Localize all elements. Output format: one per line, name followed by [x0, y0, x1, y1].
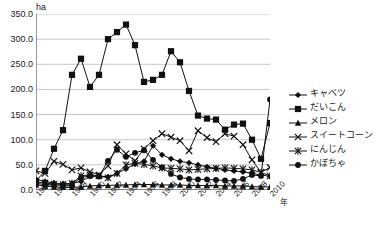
plot-area: [36, 14, 270, 190]
legend-item-label: キャベツ: [310, 89, 346, 98]
y-tick-label: 150.0: [0, 110, 33, 120]
circle-marker-icon: [288, 157, 308, 169]
data-point-circle: [295, 162, 301, 168]
data-point-square: [51, 146, 57, 152]
y-tick-label: 0.0: [0, 185, 33, 195]
data-point-circle: [267, 97, 270, 103]
square-marker-icon: [288, 101, 308, 113]
legend-item-label: にんじん: [310, 145, 346, 154]
legend-item-2[interactable]: メロン: [288, 114, 383, 128]
legend-item-5[interactable]: かぼちゃ: [288, 156, 383, 170]
data-point-square: [114, 29, 120, 35]
data-point-square: [132, 42, 138, 48]
data-point-circle: [159, 164, 165, 170]
data-point-square: [96, 72, 102, 78]
legend-item-label: かぼちゃ: [310, 159, 346, 168]
legend-item-label: メロン: [310, 117, 337, 126]
vegetable-area-line-chart: ha 350.0300.0250.0200.0150.0100.050.00.0…: [0, 0, 383, 225]
data-point-square: [240, 121, 246, 127]
data-point-square: [186, 88, 192, 94]
series-5: [36, 97, 270, 189]
data-point-square: [87, 84, 93, 90]
data-point-square: [213, 117, 219, 123]
data-point-x: [51, 158, 57, 164]
data-point-circle: [105, 158, 111, 164]
data-point-circle: [213, 177, 219, 183]
data-point-square: [204, 115, 210, 121]
x-axis-unit-label: 年: [280, 196, 288, 207]
data-point-square: [69, 72, 75, 78]
data-point-square: [231, 122, 237, 128]
legend-item-1[interactable]: だいこん: [288, 100, 383, 114]
data-point-circle: [123, 154, 129, 160]
x-axis-tick-labels: 1984198619881990199219941996199820002002…: [36, 190, 286, 225]
data-point-x: [159, 130, 165, 136]
data-point-circle: [258, 173, 264, 179]
data-point-circle: [195, 177, 201, 183]
y-tick-label: 250.0: [0, 59, 33, 69]
data-point-diamond: [177, 158, 183, 164]
data-point-x: [177, 138, 183, 144]
data-point-circle: [87, 173, 93, 179]
data-point-circle: [114, 147, 120, 153]
data-point-circle: [150, 157, 156, 163]
y-tick-label: 100.0: [0, 135, 33, 145]
asterisk-marker-icon: [288, 143, 308, 155]
data-point-square: [249, 137, 255, 143]
data-point-square: [123, 21, 129, 27]
data-point-square: [168, 48, 174, 54]
data-point-circle: [96, 174, 102, 180]
data-point-circle: [177, 175, 183, 181]
data-point-square: [141, 79, 147, 85]
data-point-circle: [132, 150, 138, 156]
data-point-square: [150, 77, 156, 83]
data-point-circle: [231, 178, 237, 184]
x-marker-icon: [288, 129, 308, 141]
legend-item-label: だいこん: [310, 103, 346, 112]
y-tick-label: 350.0: [0, 9, 33, 19]
data-point-x: [240, 142, 246, 148]
data-point-circle: [141, 147, 147, 153]
data-point-diamond: [168, 156, 174, 162]
triangle-marker-icon: [288, 115, 308, 127]
data-point-x: [186, 148, 192, 154]
data-point-circle: [249, 172, 255, 178]
legend-item-3[interactable]: スイートコーン: [288, 128, 383, 142]
y-tick-label: 200.0: [0, 84, 33, 94]
data-point-square: [60, 127, 66, 133]
legend-item-label: スイートコーン: [310, 131, 373, 140]
diamond-marker-icon: [288, 87, 308, 99]
data-point-x: [195, 127, 201, 133]
data-point-diamond: [295, 92, 301, 98]
y-tick-label: 50.0: [0, 160, 33, 170]
data-point-square: [295, 106, 301, 112]
y-axis-unit-label: ha: [36, 2, 46, 12]
data-point-square: [159, 72, 165, 78]
data-point-x: [231, 133, 237, 139]
data-point-square: [195, 112, 201, 118]
legend-item-0[interactable]: キャベツ: [288, 86, 383, 100]
data-point-x: [60, 161, 66, 167]
y-tick-label: 300.0: [0, 34, 33, 44]
y-axis-tick-labels: 350.0300.0250.0200.0150.0100.050.00.0: [0, 0, 33, 225]
data-point-square: [177, 59, 183, 65]
data-point-square: [78, 56, 84, 62]
chart-legend: キャベツだいこんメロンスイートコーンにんじんかぼちゃ: [288, 86, 383, 170]
legend-item-4[interactable]: にんじん: [288, 142, 383, 156]
data-point-x: [249, 157, 255, 163]
data-point-circle: [168, 171, 174, 177]
data-point-square: [105, 36, 111, 42]
